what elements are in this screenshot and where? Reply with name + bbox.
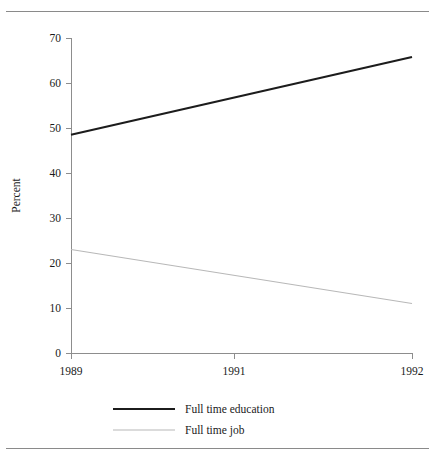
y-tick-label: 50 xyxy=(50,122,62,134)
figure-container: 010203040506070 198919911992 Percent Ful… xyxy=(0,0,435,466)
legend-label-education: Full time education xyxy=(185,403,274,415)
plot-area: 010203040506070 198919911992 Percent xyxy=(0,0,435,400)
y-tick-label: 60 xyxy=(50,77,62,89)
y-tick-label: 10 xyxy=(50,302,62,314)
series-line-full-time-education xyxy=(71,57,412,135)
y-axis-title: Percent xyxy=(10,177,22,212)
line-chart-svg: 010203040506070 198919911992 Percent xyxy=(0,0,435,400)
legend-swatch-cell xyxy=(60,424,175,436)
y-tick-label: 0 xyxy=(55,347,61,359)
legend-item-full-time-education: Full time education xyxy=(0,398,435,419)
legend-swatch-cell xyxy=(60,403,175,415)
y-tick-label: 40 xyxy=(50,167,62,179)
x-axis-ticks: 198919911992 xyxy=(60,353,424,377)
x-tick-label: 1991 xyxy=(223,365,246,377)
legend-item-full-time-job: Full time job xyxy=(0,419,435,440)
y-tick-label: 70 xyxy=(50,32,62,44)
y-tick-label: 30 xyxy=(50,212,62,224)
x-tick-label: 1989 xyxy=(60,365,83,377)
y-tick-label: 20 xyxy=(50,257,62,269)
legend-label-job: Full time job xyxy=(185,424,244,436)
legend-line-icon-job xyxy=(113,424,175,436)
bottom-horizontal-rule xyxy=(6,448,429,449)
chart-legend: Full time education Full time job xyxy=(0,398,435,440)
data-series-group xyxy=(71,57,412,304)
x-tick-label: 1992 xyxy=(401,365,424,377)
series-line-full-time-job xyxy=(71,250,412,304)
legend-line-icon-education xyxy=(113,403,175,415)
y-axis-ticks: 010203040506070 xyxy=(50,32,72,359)
